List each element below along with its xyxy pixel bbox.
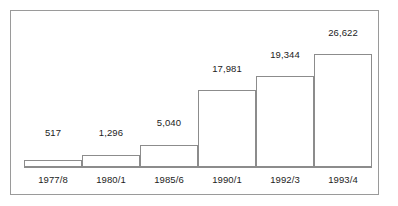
bar-value-label: 26,622 [314, 27, 372, 38]
category-label-1977-8: 1977/8 [24, 174, 82, 185]
category-label-1985-6: 1985/6 [140, 174, 198, 185]
bar-value-label: 5,040 [140, 117, 198, 128]
bar-value-label: 517 [24, 127, 82, 138]
bar-value-label: 1,296 [82, 127, 140, 138]
bar-1992-3[interactable] [256, 76, 314, 167]
chart-frame: 517 1,296 5,040 17,981 19,344 26,622 197… [10, 10, 379, 195]
bar-1985-6[interactable] [140, 145, 198, 167]
category-label-1993-4: 1993/4 [314, 174, 372, 185]
bar-1977-8[interactable] [24, 160, 82, 167]
bar-value-label: 19,344 [256, 49, 314, 60]
bar-1993-4[interactable] [314, 54, 372, 167]
category-label-1990-1: 1990/1 [198, 174, 256, 185]
bar-1990-1[interactable] [198, 90, 256, 167]
category-label-1992-3: 1992/3 [256, 174, 314, 185]
bar-1980-1[interactable] [82, 155, 140, 167]
bar-chart: 517 1,296 5,040 17,981 19,344 26,622 197… [0, 0, 398, 206]
x-axis-baseline [24, 167, 372, 168]
bar-value-label: 17,981 [198, 63, 256, 74]
plot-area: 517 1,296 5,040 17,981 19,344 26,622 197… [11, 11, 378, 194]
category-label-1980-1: 1980/1 [82, 174, 140, 185]
